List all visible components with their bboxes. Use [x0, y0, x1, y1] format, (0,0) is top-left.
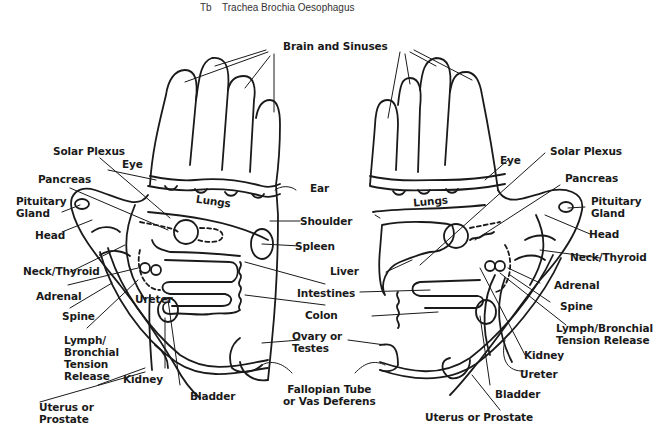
label-left-solar-plexus: Solar Plexus: [53, 145, 125, 157]
label-shoulder: Shoulder: [300, 215, 352, 227]
label-left-pituitary: Pituitary Gland: [16, 195, 67, 219]
label-right-lymph: Lymph/Bronchial Tension Release: [556, 322, 653, 346]
label-right-eye: Eye: [500, 154, 521, 166]
label-right-ureter: Ureter: [520, 368, 558, 380]
label-left-kidney: Kidney: [123, 373, 163, 385]
label-left-ureter: Ureter: [135, 293, 173, 305]
label-right-spine: Spine: [560, 300, 593, 312]
label-left-lymph: Lymph/ Bronchial Tension Release: [64, 334, 119, 382]
label-liver: Liver: [330, 265, 359, 277]
label-ovary-testes: Ovary or Testes: [292, 330, 342, 354]
label-right-uterus: Uterus or Prostate: [425, 411, 533, 423]
label-right-head: Head: [589, 228, 619, 240]
label-intestines: Intestines: [297, 287, 355, 299]
right-hand: [370, 58, 582, 395]
label-spleen: Spleen: [295, 240, 335, 252]
label-left-head: Head: [35, 229, 65, 241]
label-right-pituitary: Pituitary Gland: [591, 195, 642, 219]
label-right-solar-plexus: Solar Plexus: [550, 145, 622, 157]
label-left-eye: Eye: [122, 158, 143, 170]
label-right-pancreas: Pancreas: [565, 172, 618, 184]
label-colon: Colon: [305, 309, 338, 321]
label-ear: Ear: [310, 182, 329, 194]
label-right-neck-thyroid: Neck/Thyroid: [570, 251, 647, 263]
label-left-bladder: Bladder: [190, 390, 235, 402]
label-right-bladder: Bladder: [495, 388, 540, 400]
label-left-uterus: Uterus or Prostate: [39, 401, 94, 425]
label-right-adrenal: Adrenal: [554, 279, 599, 291]
label-left-pancreas: Pancreas: [38, 173, 91, 185]
label-left-spine: Spine: [62, 310, 95, 322]
leader-lines: [40, 50, 600, 410]
label-left-neck-thyroid: Neck/Thyroid: [23, 265, 100, 277]
label-brain-sinuses: Brain and Sinuses: [283, 40, 388, 52]
label-right-kidney: Kidney: [524, 349, 564, 361]
label-fallopian-vas-deferens: Fallopian Tube or Vas Deferens: [283, 383, 376, 407]
label-left-adrenal: Adrenal: [36, 290, 81, 302]
